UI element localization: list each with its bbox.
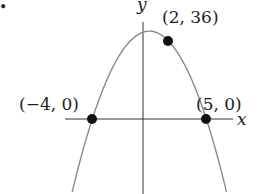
- parabola-diagram: • y x (2, 36) (−4, 0) (5, 0): [0, 0, 260, 194]
- point-label-5-0: (5, 0): [196, 94, 242, 114]
- y-axis-label: y: [136, 0, 147, 14]
- point-2-36: [163, 36, 173, 46]
- point-neg4-0: [87, 114, 97, 124]
- point-label-neg4-0: (−4, 0): [19, 94, 79, 114]
- point-label-2-36: (2, 36): [162, 7, 219, 27]
- point-5-0: [201, 114, 211, 124]
- bullet-marker: •: [0, 0, 7, 15]
